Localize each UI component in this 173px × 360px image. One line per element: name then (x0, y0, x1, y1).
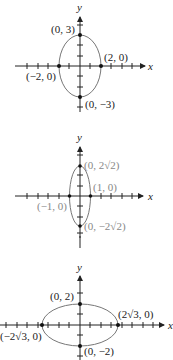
label-right: (1, 0) (93, 181, 117, 194)
label-right: (2, 0) (104, 51, 128, 64)
label-bottom: (0, −3) (85, 98, 115, 111)
label-top: (0, 2) (50, 290, 74, 303)
label-right: (2√3, 0) (118, 308, 154, 321)
x-axis-label: x (167, 319, 173, 331)
graph-1: y x (0, 3) (0, −3) (−2, 0) (2, 0) (15, 1, 153, 112)
y-axis-label: y (76, 261, 82, 273)
label-bottom: (0, −2) (84, 345, 114, 358)
vertex-bottom (78, 344, 82, 348)
vertex-right (99, 64, 103, 68)
vertex-left (57, 64, 61, 68)
x-axis-label: x (147, 190, 153, 202)
vertex-top (78, 33, 82, 37)
label-top: (0, 3) (51, 23, 75, 36)
vertex-left (68, 194, 72, 198)
label-left: (−2, 0) (26, 70, 56, 83)
vertex-bottom (78, 224, 82, 228)
y-axis-label: y (76, 1, 82, 13)
vertex-top (78, 302, 82, 306)
ellipse-figures: y x (0, 3) (0, −3) (−2, 0) (2, 0) (0, 0, 173, 360)
vertex-bottom (78, 95, 82, 99)
label-left: (−2√3, 0) (0, 330, 42, 343)
y-axis-label: y (76, 131, 82, 143)
label-bottom: (0, −2√2) (84, 220, 126, 233)
vertex-right (89, 194, 93, 198)
x-axis-label: x (147, 60, 153, 72)
graph-3: y x (0, 2) (0, −2) (−2√3, 0) (2√3, 0) (0, 236, 173, 360)
vertex-top (78, 164, 82, 168)
vertex-right (116, 323, 120, 327)
graph-2: y x (0, 2√2) (0, −2√2) (−1, 0) (1, 0) (15, 131, 153, 238)
label-left: (−1, 0) (37, 200, 67, 213)
label-top: (0, 2√2) (84, 159, 120, 172)
vertex-left (40, 323, 44, 327)
